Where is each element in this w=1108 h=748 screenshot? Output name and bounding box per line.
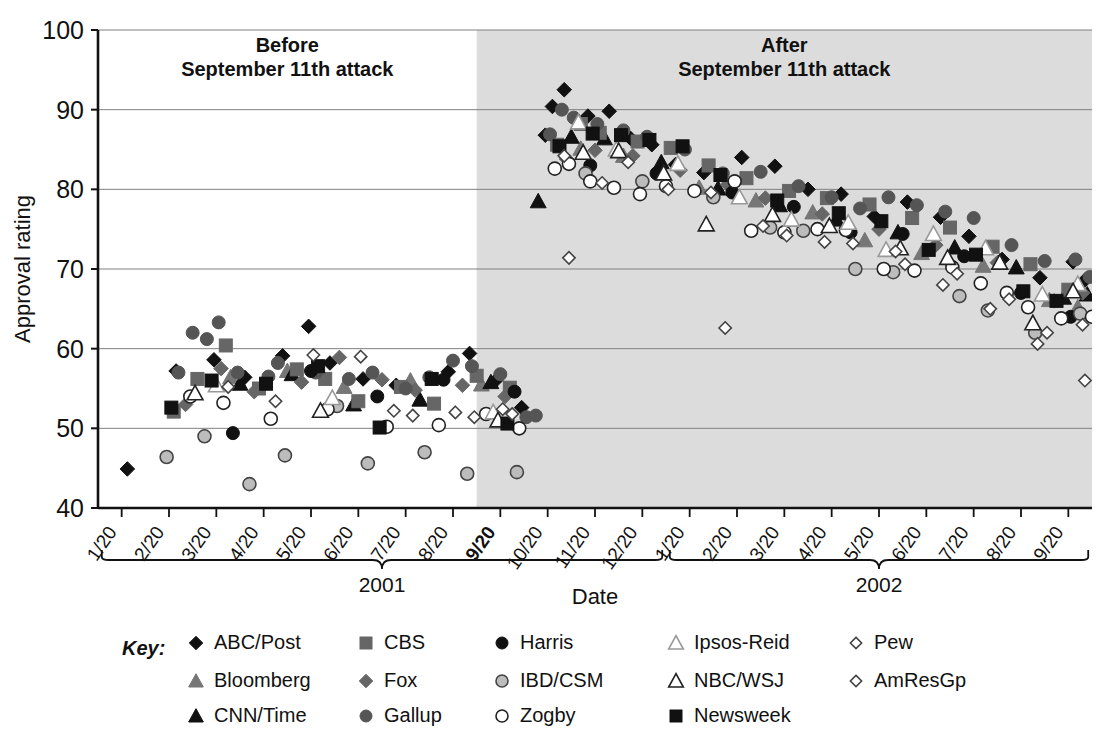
data-point <box>425 372 438 385</box>
y-axis-title: Approval rating <box>10 195 35 343</box>
x-axis-tick-label: 4/20 <box>225 522 263 564</box>
legend-item-label: NBC/WSJ <box>694 669 784 691</box>
legend-marker-icon <box>360 637 372 649</box>
data-point <box>355 350 367 362</box>
legend-marker-icon <box>850 675 861 686</box>
y-axis-tick-label: 100 <box>42 16 84 44</box>
approval-rating-scatter-chart: 405060708090100Approval rating1/202/203/… <box>0 0 1108 748</box>
data-point <box>373 421 386 434</box>
data-point <box>342 372 355 385</box>
legend-item[interactable]: Newsweek <box>670 704 792 726</box>
legend-item[interactable]: ABC/Post <box>189 631 301 653</box>
data-point <box>939 205 952 218</box>
data-point <box>231 366 244 379</box>
legend-marker-icon <box>496 675 508 687</box>
legend-item[interactable]: Gallup <box>360 704 442 726</box>
legend-item[interactable]: CBS <box>360 631 425 653</box>
data-point <box>447 354 460 367</box>
chart-page: 405060708090100Approval rating1/202/203/… <box>0 0 1108 748</box>
legend-item[interactable]: Fox <box>359 669 417 691</box>
legend-item-label: Harris <box>520 631 573 653</box>
data-point <box>953 290 966 303</box>
data-point <box>278 449 291 462</box>
data-point <box>688 184 701 197</box>
x-axis-tick-label: 3/20 <box>745 522 783 564</box>
data-point <box>586 127 599 140</box>
legend-item-label: Gallup <box>384 704 442 726</box>
data-point <box>702 159 715 172</box>
data-point <box>875 215 888 228</box>
data-point <box>172 366 185 379</box>
data-point <box>832 207 845 220</box>
x-axis-tick-label: 5/20 <box>272 522 310 564</box>
data-point <box>544 128 557 141</box>
region-annotation: September 11th attack <box>678 58 891 80</box>
data-point <box>428 397 441 410</box>
data-point <box>513 422 526 435</box>
data-point <box>792 180 805 193</box>
data-point <box>1017 285 1030 298</box>
data-point <box>849 263 862 276</box>
data-point <box>1074 307 1087 320</box>
legend-marker-icon <box>189 674 204 687</box>
legend-marker-icon <box>670 710 682 722</box>
legend-item[interactable]: IBD/CSM <box>496 669 603 691</box>
data-point <box>754 165 767 178</box>
legend-marker-icon <box>669 674 684 687</box>
legend-item[interactable]: Pew <box>850 631 913 653</box>
data-point <box>271 357 284 370</box>
legend-item-label: Newsweek <box>694 704 792 726</box>
legend-item-label: Pew <box>874 631 913 653</box>
legend-item[interactable]: Zogby <box>496 704 576 726</box>
data-point <box>967 212 980 225</box>
year-bracket-label: 2001 <box>359 573 406 596</box>
legend-item[interactable]: Ipsos-Reid <box>669 631 790 653</box>
legend-item-label: Zogby <box>520 704 576 726</box>
legend-item[interactable]: NBC/WSJ <box>669 669 784 691</box>
data-point <box>1038 255 1051 268</box>
data-point <box>226 427 239 440</box>
x-axis-tick-label: 8/20 <box>414 522 452 564</box>
legend-marker-icon <box>359 674 372 687</box>
y-axis-tick-label: 40 <box>56 494 84 522</box>
data-point <box>198 430 211 443</box>
data-point <box>191 372 204 385</box>
legend-item-label: Bloomberg <box>214 669 311 691</box>
data-point <box>922 243 935 256</box>
legend-item[interactable]: CNN/Time <box>189 704 307 726</box>
legend-item-label: ABC/Post <box>214 631 301 653</box>
x-axis-tick-label: 5/20 <box>840 522 878 564</box>
legend-key-label: Key: <box>122 637 165 659</box>
legend-marker-icon <box>189 709 204 722</box>
x-axis-tick-label: 2/20 <box>130 522 168 564</box>
data-point <box>465 360 478 373</box>
x-axis-tick-label: 9/20 <box>461 522 499 564</box>
x-axis-tick-label: 3/20 <box>177 522 215 564</box>
data-point <box>636 175 649 188</box>
data-point <box>615 129 628 142</box>
legend-item[interactable]: Harris <box>496 631 573 653</box>
data-point <box>269 395 281 407</box>
data-point <box>974 277 987 290</box>
legend-item[interactable]: Bloomberg <box>189 669 311 691</box>
region-annotation: After <box>761 34 808 56</box>
data-point <box>1069 253 1082 266</box>
legend-item[interactable]: AmResGp <box>850 669 966 691</box>
data-point <box>432 419 445 432</box>
legend-marker-icon <box>669 636 684 649</box>
data-point <box>160 451 173 464</box>
data-point <box>740 172 753 185</box>
year-bracket <box>670 550 1088 569</box>
data-point <box>388 405 400 417</box>
x-axis-tick-label: 12/20 <box>597 522 641 573</box>
data-point <box>529 409 542 422</box>
data-point <box>664 141 677 154</box>
data-point <box>407 409 419 421</box>
data-point <box>787 200 800 213</box>
y-axis-tick-label: 70 <box>56 255 84 283</box>
x-axis-tick-label: 6/20 <box>319 522 357 564</box>
data-point <box>449 406 461 418</box>
x-axis-tick-label: 2/20 <box>698 522 736 564</box>
data-point <box>352 395 365 408</box>
legend-marker-icon <box>189 636 202 649</box>
